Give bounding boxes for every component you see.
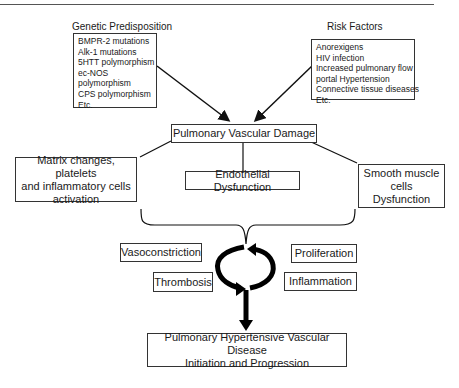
risk-item: Etc. xyxy=(316,95,410,106)
risk-item: Connective tissue diseases xyxy=(316,84,410,95)
genetic-item: CPS polymorphism xyxy=(78,89,152,100)
outcome-box: Pulmonary Hypertensive Vascular Disease … xyxy=(147,333,347,367)
matrix-box: Matrix changes, platelets and inflammato… xyxy=(15,157,137,202)
risk-item: HIV infection xyxy=(316,53,410,64)
genetic-item: ec-NOS xyxy=(78,68,152,79)
vasoconstriction-box: Vasoconstriction xyxy=(120,243,202,262)
endothelial-box: Endothelial Dysfunction xyxy=(185,171,300,190)
proliferation-box: Proliferation xyxy=(291,244,357,263)
matrix-line: Matrix changes, platelets xyxy=(16,154,136,180)
genetic-item: Alk-1 mutations xyxy=(78,47,152,58)
genetic-item: 5HTT polymorphism xyxy=(78,57,152,68)
risk-item: portal Hypertension xyxy=(316,74,410,85)
smooth-muscle-box: Smooth muscle cells Dysfunction xyxy=(358,164,445,208)
risk-item: Anorexigens xyxy=(316,42,410,53)
smooth-line: Dysfunction xyxy=(373,193,430,206)
genetic-box: BMPR-2 mutations Alk-1 mutations 5HTT po… xyxy=(73,33,157,108)
vasoconstriction-label: Vasoconstriction xyxy=(121,246,201,259)
risk-heading: Risk Factors xyxy=(327,21,383,32)
genetic-item: polymorphism xyxy=(78,78,152,89)
inflammation-box: Inflammation xyxy=(284,272,357,291)
vascular-damage-box: Pulmonary Vascular Damage xyxy=(171,124,317,143)
smooth-line: cells xyxy=(390,180,412,193)
matrix-line: activation xyxy=(53,193,99,206)
genetic-item: Etc. xyxy=(78,100,152,111)
inflammation-label: Inflammation xyxy=(289,275,352,288)
smooth-line: Smooth muscle xyxy=(364,167,440,180)
vascular-damage-label: Pulmonary Vascular Damage xyxy=(173,127,315,140)
outcome-line: Initiation and Progression xyxy=(185,357,309,370)
risk-item: Increased pulmonary flow xyxy=(316,63,410,74)
genetic-item: BMPR-2 mutations xyxy=(78,36,152,47)
proliferation-label: Proliferation xyxy=(295,247,354,260)
thrombosis-label: Thrombosis xyxy=(154,276,211,289)
endothelial-label: Endothelial Dysfunction xyxy=(186,168,299,194)
matrix-line: and inflammatory cells xyxy=(21,180,130,193)
genetic-heading: Genetic Predisposition xyxy=(72,21,172,32)
outcome-line: Pulmonary Hypertensive Vascular Disease xyxy=(148,331,346,357)
risk-box: Anorexigens HIV infection Increased pulm… xyxy=(311,39,415,100)
thrombosis-box: Thrombosis xyxy=(153,272,213,292)
